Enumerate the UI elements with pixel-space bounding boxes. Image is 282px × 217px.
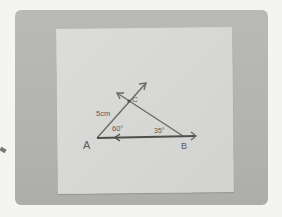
base-ab — [97, 136, 196, 138]
angle-b-label: 35° — [154, 127, 165, 134]
vertex-c-label: C — [132, 95, 138, 104]
vertex-b-label: B — [181, 141, 187, 151]
ray-bc — [117, 93, 183, 136]
vertex-a-label: A — [83, 139, 91, 151]
point-c — [127, 99, 130, 102]
angle-a-label: 60° — [112, 124, 123, 133]
triangle-diagram: A B C 5cm 60° 35° — [0, 0, 282, 217]
side-length-label: 5cm — [96, 109, 110, 118]
